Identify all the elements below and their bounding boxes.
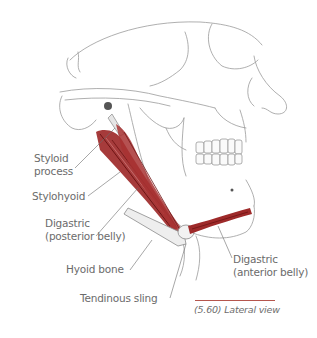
figure-caption: (5.60) Lateral view — [194, 304, 280, 315]
label-hyoid-bone: Hyoid bone — [66, 263, 124, 276]
label-tendinous-sling: Tendinous sling — [80, 292, 158, 305]
leader-tendinous-sling — [170, 244, 186, 298]
label-stylohyoid-line1: Stylohyoid — [32, 190, 85, 203]
label-stylohyoid: Stylohyoid — [32, 190, 85, 203]
leader-stylohyoid — [88, 172, 120, 196]
label-digastric-posterior: Digastric (posterior belly) — [45, 217, 125, 243]
leader-hyoid — [130, 240, 152, 270]
caption-rule — [195, 300, 275, 301]
label-styloid-process: Styloid process — [34, 152, 73, 178]
cranium-outline — [70, 22, 262, 60]
label-digastric-posterior-line1: Digastric — [45, 217, 125, 230]
teeth — [196, 139, 242, 165]
label-digastric-posterior-line2: (posterior belly) — [45, 230, 125, 243]
label-digastric-anterior-line2: (anterior belly) — [233, 266, 308, 279]
label-tendinous-sling-line1: Tendinous sling — [80, 292, 158, 305]
label-styloid-line1: Styloid — [34, 152, 73, 165]
nose-outline — [254, 56, 287, 114]
mastoid-outline — [60, 96, 96, 130]
label-digastric-anterior-line1: Digastric — [233, 253, 308, 266]
leader-digastric-anterior — [218, 226, 232, 258]
label-hyoid-line1: Hyoid bone — [66, 263, 124, 276]
label-styloid-line2: process — [34, 165, 73, 178]
orbit-outline — [208, 24, 258, 69]
label-digastric-anterior: Digastric (anterior belly) — [233, 253, 308, 279]
ear-canal — [104, 102, 112, 110]
